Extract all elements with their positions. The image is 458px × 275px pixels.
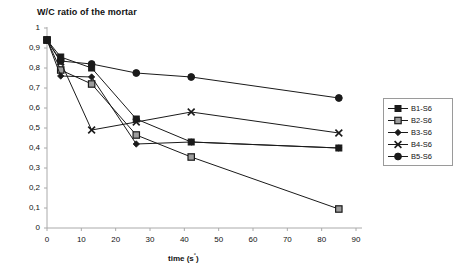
data-point-marker bbox=[88, 81, 94, 87]
series-b3-s6 bbox=[44, 37, 342, 151]
legend-item-b1-s6[interactable]: B1-S6 bbox=[386, 102, 450, 114]
legend-key-glyph bbox=[388, 141, 408, 148]
legend-item-b3-s6[interactable]: B3-S6 bbox=[386, 126, 450, 138]
legend-marker-icon bbox=[387, 103, 409, 114]
data-point-marker bbox=[395, 117, 401, 123]
legend-item-label: B5-S6 bbox=[409, 152, 432, 161]
data-point-marker bbox=[336, 206, 342, 212]
legend-item-label: B2-S6 bbox=[409, 116, 432, 125]
legend-marker-icon bbox=[387, 115, 409, 126]
legend-item-b2-s6[interactable]: B2-S6 bbox=[386, 114, 450, 126]
data-point-marker bbox=[133, 70, 140, 77]
x-axis-title-text: time (s bbox=[168, 254, 194, 263]
chart-container: W/C ratio of the mortar 00,10,20,30,40,5… bbox=[0, 0, 458, 275]
legend-item-label: B4-S6 bbox=[409, 140, 432, 149]
data-point-marker bbox=[395, 129, 401, 135]
data-point-marker bbox=[133, 141, 139, 147]
legend-marker-icon bbox=[387, 127, 409, 138]
legend-marker-icon bbox=[387, 139, 409, 150]
legend-key-glyph bbox=[388, 105, 408, 111]
series-b1-s6 bbox=[44, 37, 342, 151]
data-point-marker bbox=[88, 74, 94, 80]
data-point-marker bbox=[133, 132, 139, 138]
legend-key-glyph bbox=[388, 153, 408, 160]
legend-key-glyph bbox=[388, 117, 408, 123]
data-point-marker bbox=[335, 95, 342, 102]
x-axis-title-close: ) bbox=[196, 254, 199, 263]
legend-item-label: B3-S6 bbox=[409, 128, 432, 137]
data-point-marker bbox=[88, 61, 95, 68]
data-point-marker bbox=[57, 58, 64, 65]
data-point-marker bbox=[44, 37, 51, 44]
data-point-marker bbox=[395, 153, 402, 160]
legend-key-glyph bbox=[388, 129, 408, 135]
legend-item-b4-s6[interactable]: B4-S6 bbox=[386, 138, 450, 150]
data-point-marker bbox=[188, 74, 195, 81]
legend-item-label: B1-S6 bbox=[409, 104, 432, 113]
x-axis-title: time (s°) bbox=[168, 252, 199, 263]
legend-marker-icon bbox=[387, 151, 409, 162]
data-point-marker bbox=[188, 154, 194, 160]
legend-item-b5-s6[interactable]: B5-S6 bbox=[386, 150, 450, 162]
chart-legend: B1-S6B2-S6B3-S6B4-S6B5-S6 bbox=[383, 98, 453, 166]
data-point-marker bbox=[395, 105, 401, 111]
